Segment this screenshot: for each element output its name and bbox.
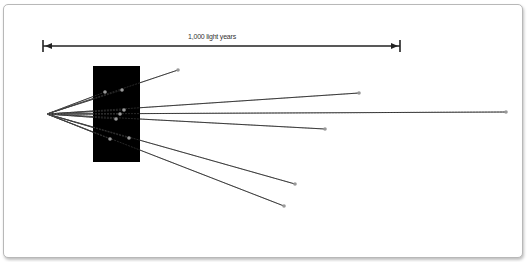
star-dot <box>103 90 107 94</box>
scale-label: 1,000 light years <box>188 33 236 40</box>
star-dot <box>323 127 327 131</box>
star-dot <box>118 112 122 116</box>
star-dot <box>293 182 297 186</box>
star-dot <box>127 136 131 140</box>
star-dot <box>122 108 126 112</box>
scale-bar <box>43 40 400 52</box>
stars <box>103 68 508 208</box>
star-dot <box>176 68 180 72</box>
star-dot <box>357 91 361 95</box>
arrow-right-icon <box>391 43 398 49</box>
star-dot <box>120 88 124 92</box>
star-distance-diagram <box>0 0 527 262</box>
star-dot <box>282 204 286 208</box>
star-dot <box>108 137 112 141</box>
star-dot <box>504 110 508 114</box>
star-dot <box>114 117 118 121</box>
arrow-left-icon <box>45 43 52 49</box>
